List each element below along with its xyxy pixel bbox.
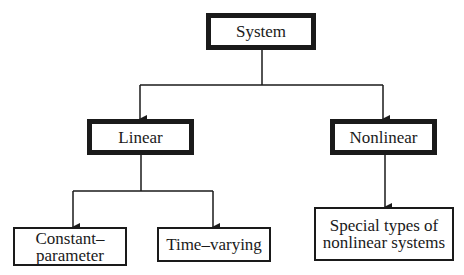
linear-label: Linear bbox=[118, 129, 162, 146]
nonlinear-label: Nonlinear bbox=[350, 129, 418, 146]
constant-parameter-label-line2: parameter bbox=[36, 247, 104, 264]
special-types-node: Special types of nonlinear systems bbox=[314, 207, 454, 261]
time-varying-label: Time–varying bbox=[166, 236, 262, 253]
constant-parameter-node: Constant– parameter bbox=[13, 227, 127, 266]
nonlinear-node: Nonlinear bbox=[330, 119, 437, 155]
constant-parameter-label-line1: Constant– bbox=[36, 230, 105, 247]
special-types-label-line2: nonlinear systems bbox=[323, 234, 445, 251]
linear-node: Linear bbox=[87, 119, 194, 155]
special-types-label-line1: Special types of bbox=[330, 217, 439, 234]
time-varying-node: Time–varying bbox=[157, 227, 271, 262]
system-label: System bbox=[236, 23, 286, 40]
system-node: System bbox=[206, 13, 316, 50]
